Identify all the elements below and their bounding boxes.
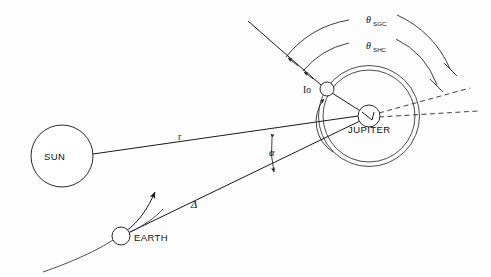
- theta-sgc-end-tick: [444, 63, 457, 76]
- jupiter-reference-dashed-lower: [379, 111, 478, 117]
- earth-body[interactable]: [112, 227, 130, 245]
- theta-sgc-symbol: θ: [366, 14, 371, 25]
- theta-shc-end-tick: [430, 79, 443, 92]
- diagram-svg: SUN EARTH JUPITER Io r Δ α θ SGC θ SHC: [0, 0, 491, 277]
- alpha-angle-label: α: [269, 147, 275, 158]
- jupiter-io-line: [332, 93, 362, 112]
- theta-shc-subscript: SHC: [373, 46, 387, 53]
- sunlight-ray-upper-segment: [248, 21, 321, 85]
- earth-velocity-arrow: [126, 192, 155, 231]
- theta-shc-arc-arrowhead: [304, 72, 313, 79]
- io-position-arc: [316, 99, 333, 152]
- sun-label: SUN: [44, 151, 65, 162]
- theta-sgc-arc-arrowhead: [288, 58, 298, 66]
- earth-orbit-arc-forward: [130, 209, 163, 232]
- theta-shc-symbol: θ: [366, 40, 371, 51]
- distance-r-label: r: [178, 132, 182, 142]
- theta-sgc-subscript: SGC: [373, 20, 387, 27]
- distance-delta-label: Δ: [190, 199, 197, 210]
- io-label: Io: [303, 85, 311, 95]
- earth-orbit-arc: [43, 240, 113, 272]
- jupiter-reference-dashed-upper: [379, 88, 470, 113]
- io-body[interactable]: [320, 82, 334, 96]
- astronomy-diagram-canvas: SUN EARTH JUPITER Io r Δ α θ SGC θ SHC: [0, 0, 491, 277]
- theta-shc-arc-left: [303, 43, 349, 71]
- earth-jupiter-line: [128, 120, 362, 233]
- theta-sgc-arc-left: [286, 20, 349, 57]
- jupiter-label: JUPITER: [348, 124, 390, 135]
- earth-label: EARTH: [134, 232, 168, 243]
